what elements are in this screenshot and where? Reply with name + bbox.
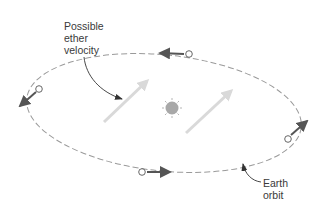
- ether-velocity-arrow: [186, 91, 231, 133]
- earth-left: [20, 86, 42, 106]
- ether-label-line: velocity: [64, 44, 104, 56]
- orbit-diagram: [0, 0, 316, 204]
- earth-right: [285, 121, 307, 142]
- sun-icon: [162, 98, 182, 118]
- earth-position-marker: [186, 51, 193, 58]
- earth-position-marker: [285, 136, 292, 143]
- earth-orbit-label: Earth orbit: [263, 177, 288, 201]
- ether-label-line: Possible: [64, 20, 104, 32]
- ether-velocity-label: Possible ether velocity: [64, 20, 104, 56]
- earth-bottom: [139, 169, 170, 176]
- earth-orbit-ellipse: [21, 41, 308, 185]
- ether-label-line: ether: [64, 32, 104, 44]
- orbit-label-line: orbit: [263, 189, 288, 201]
- ether-label-leader: [84, 57, 122, 99]
- earth-position-marker: [36, 86, 43, 93]
- orbit-label-line: Earth: [263, 177, 288, 189]
- earth-position-marker: [139, 169, 146, 176]
- ether-velocity-arrow: [104, 81, 147, 122]
